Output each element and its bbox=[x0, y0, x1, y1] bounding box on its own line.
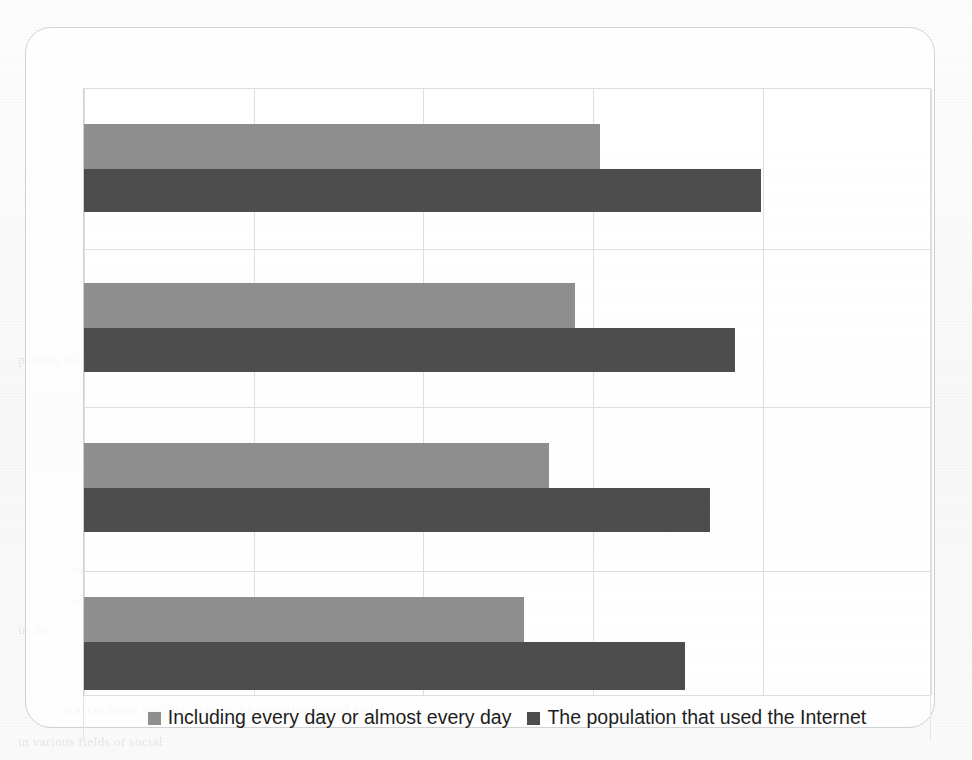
bar-series1-category1 bbox=[84, 328, 735, 372]
gridline-x-100 bbox=[931, 89, 932, 695]
bar-series1-category2 bbox=[84, 488, 710, 532]
bar-series0-category0 bbox=[84, 124, 600, 169]
gridline-category-1 bbox=[84, 249, 930, 250]
chart-frame: Including every day or almost every day … bbox=[25, 27, 935, 728]
legend-entry-0[interactable]: Including every day or almost every day bbox=[148, 708, 512, 728]
legend-swatch-dark-icon bbox=[527, 712, 540, 725]
bar-series1-category3 bbox=[84, 642, 685, 690]
chart-legend: Including every day or almost every day … bbox=[83, 696, 931, 740]
legend-label-1: The population that used the Internet bbox=[547, 708, 866, 728]
legend-swatch-light-icon bbox=[148, 712, 161, 725]
legend-label-0: Including every day or almost every day bbox=[168, 708, 512, 728]
bar-series0-category1 bbox=[84, 283, 575, 328]
bar-series1-category0 bbox=[84, 169, 761, 212]
gridline-x-80 bbox=[763, 89, 764, 695]
gridline-category-3 bbox=[84, 571, 930, 572]
gridline-category-2 bbox=[84, 407, 930, 408]
bar-series0-category3 bbox=[84, 597, 524, 642]
legend-entry-1[interactable]: The population that used the Internet bbox=[527, 708, 866, 728]
plot-area bbox=[83, 88, 931, 696]
bar-series0-category2 bbox=[84, 443, 549, 488]
